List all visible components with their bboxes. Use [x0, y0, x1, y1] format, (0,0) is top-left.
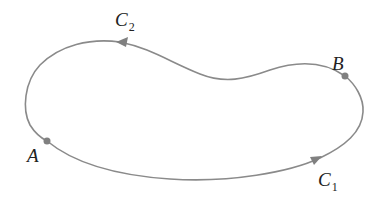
label-c1-letter: C — [318, 169, 331, 190]
label-a: A — [27, 146, 39, 165]
label-c1: C1 — [318, 170, 338, 189]
curve-c1 — [47, 76, 363, 180]
label-c2-subscript: 2 — [129, 20, 135, 34]
arrow-c1-icon — [310, 156, 322, 165]
closed-curve-diagram: C2 B A C1 — [0, 0, 385, 198]
arrow-c2-icon — [116, 37, 128, 47]
label-c2: C2 — [115, 10, 135, 29]
label-c1-subscript: 1 — [332, 180, 338, 194]
curve-c2 — [25, 41, 345, 141]
label-c2-letter: C — [115, 9, 128, 30]
label-b: B — [332, 54, 344, 73]
point-a — [44, 138, 51, 145]
